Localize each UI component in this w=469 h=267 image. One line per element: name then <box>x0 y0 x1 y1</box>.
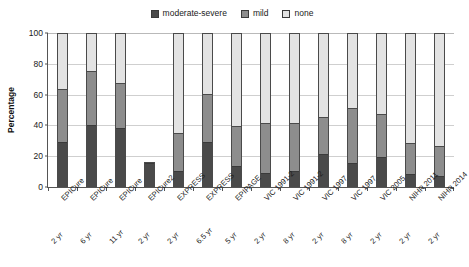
x-tick-mark <box>453 187 454 191</box>
x-tick-mark <box>135 187 136 191</box>
y-tick-label: 20 <box>34 152 43 161</box>
bar-group <box>202 33 213 187</box>
y-tick-label: 60 <box>34 90 43 99</box>
bar-segment-severe <box>145 163 154 187</box>
y-tick-mark <box>45 63 48 64</box>
y-tick-label: 40 <box>34 121 43 130</box>
x-label-age: 2 yr <box>253 231 268 246</box>
x-label-age: 11 yr <box>108 228 125 245</box>
stacked-bar[interactable] <box>115 33 126 187</box>
legend-swatch-moderate-severe <box>151 10 159 18</box>
stacked-bar[interactable] <box>289 33 300 187</box>
x-tick-mark <box>425 187 426 191</box>
bar-segment-none <box>377 34 386 114</box>
bar-segment-mild <box>377 114 386 157</box>
stacked-bar[interactable] <box>86 33 97 187</box>
bar-segment-mild <box>261 123 270 172</box>
bar-segment-none <box>290 34 299 123</box>
y-tick-mark <box>45 125 48 126</box>
bar-segment-mild <box>406 143 415 174</box>
bar-group <box>57 33 68 187</box>
stacked-bar[interactable] <box>318 33 329 187</box>
stacked-bar[interactable] <box>434 33 445 187</box>
legend-label-none: none <box>294 9 313 18</box>
x-label-age: 2 yr <box>427 231 442 246</box>
bar-segment-none <box>406 34 415 143</box>
bar-segment-mild <box>319 117 328 154</box>
bar-segment-mild <box>87 71 96 125</box>
x-tick-mark <box>77 187 78 191</box>
x-label-age: 6.5 yr <box>195 227 214 246</box>
stacked-bar[interactable] <box>260 33 271 187</box>
stacked-bar[interactable] <box>144 162 155 187</box>
x-label-age: 8 yr <box>340 231 355 246</box>
bar-segment-severe <box>174 171 183 187</box>
stacked-bar[interactable] <box>173 33 184 187</box>
x-label-age: 5 yr <box>224 231 239 246</box>
bar-segment-severe <box>406 174 415 187</box>
bar-segment-severe <box>377 157 386 187</box>
legend-item-none: none <box>282 9 313 18</box>
x-label-age: 2 yr <box>166 231 181 246</box>
bar-segment-severe <box>87 125 96 187</box>
bar-segment-mild <box>435 146 444 175</box>
bar-segment-none <box>203 34 212 94</box>
bar-group <box>347 33 358 187</box>
x-tick-mark <box>251 187 252 191</box>
bar-group <box>318 33 329 187</box>
bar-group <box>173 33 184 187</box>
stacked-bar[interactable] <box>376 33 387 187</box>
bar-group <box>434 33 445 187</box>
stacked-bar[interactable] <box>231 33 242 187</box>
x-label-age: 2 yr <box>369 231 384 246</box>
y-axis-title: Percentage <box>5 33 17 187</box>
legend-label-mild: mild <box>253 9 269 18</box>
bar-segment-severe <box>290 171 299 187</box>
x-label-age: 2 yr <box>398 231 413 246</box>
bar-segment-mild <box>290 123 299 171</box>
chart-legend: moderate-severe mild none <box>0 9 464 18</box>
bar-segment-severe <box>116 128 125 187</box>
bar-segment-severe <box>58 142 67 187</box>
bar-segment-mild <box>58 89 67 141</box>
bar-group <box>115 33 126 187</box>
y-tick-mark <box>45 156 48 157</box>
y-tick-label: 0 <box>38 183 43 192</box>
y-tick-mark <box>45 94 48 95</box>
stacked-bar[interactable] <box>347 33 358 187</box>
bar-segment-none <box>232 34 241 126</box>
bar-group <box>260 33 271 187</box>
gridline <box>48 64 454 65</box>
bar-segment-severe <box>348 163 357 187</box>
bar-segment-none <box>116 34 125 83</box>
bar-segment-none <box>435 34 444 146</box>
x-tick-mark <box>367 187 368 191</box>
bar-segment-severe <box>232 166 241 187</box>
y-tick-mark <box>45 33 48 34</box>
legend-swatch-mild <box>241 10 249 18</box>
bar-group <box>231 33 242 187</box>
bar-segment-mild <box>174 133 183 172</box>
x-label-age: 6 yr <box>79 231 94 246</box>
y-tick-label: 100 <box>29 29 43 38</box>
x-tick-mark <box>338 187 339 191</box>
gridline <box>48 33 454 34</box>
bar-group <box>405 33 416 187</box>
x-label-age: 2 yr <box>311 231 326 246</box>
x-tick-mark <box>396 187 397 191</box>
bar-segment-none <box>261 34 270 123</box>
y-axis-title-text: Percentage <box>6 87 16 133</box>
bar-segment-mild <box>232 126 241 166</box>
stacked-bar[interactable] <box>405 33 416 187</box>
bar-group <box>86 33 97 187</box>
x-tick-mark <box>193 187 194 191</box>
bar-segment-severe <box>435 176 444 187</box>
stacked-bar[interactable] <box>57 33 68 187</box>
bar-segment-none <box>348 34 357 108</box>
x-label-age: 2 yr <box>137 231 152 246</box>
stacked-bar[interactable] <box>202 33 213 187</box>
gridline <box>48 156 454 157</box>
bar-segment-none <box>319 34 328 117</box>
x-tick-mark <box>48 187 49 191</box>
